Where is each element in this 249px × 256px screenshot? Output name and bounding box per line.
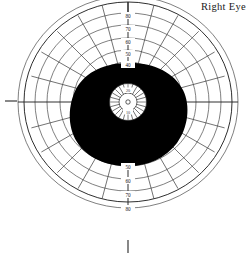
ring-label-inf-60: 60: [125, 178, 131, 184]
ring-label-central-10: 10: [126, 110, 130, 115]
perimetry-plot: 20 10 80 70 60 50 40 50 60 70 8: [0, 0, 249, 256]
ring-label-sup-50: 50: [125, 51, 131, 57]
ring-label-inf-80: 80: [125, 206, 131, 212]
ring-label-sup-60: 60: [125, 39, 131, 45]
ring-label-central-20: 20: [126, 88, 130, 93]
ring-label-sup-40: 40: [125, 62, 131, 68]
ring-label-sup-80: 80: [125, 13, 131, 19]
ring-label-sup-70: 70: [125, 26, 131, 32]
ring-label-inf-70: 70: [125, 192, 131, 198]
ring-label-inf-50: 50: [125, 164, 131, 170]
visual-field-chart: Right Eye: [0, 0, 249, 256]
fixation-point: [126, 100, 130, 104]
